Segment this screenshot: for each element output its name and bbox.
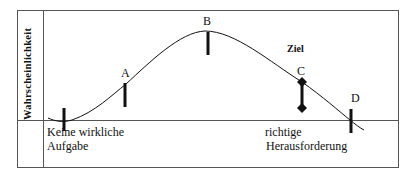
right-bottom-label-line1: richtige <box>265 126 302 139</box>
left-bottom-label-line1: Keine wirkliche <box>47 126 124 139</box>
right-bottom-label-line2: Herausforderung <box>266 140 347 153</box>
probability-curve <box>48 31 364 130</box>
y-axis-label: Wahrscheinlichkeit <box>22 28 33 120</box>
left-bottom-label-line2: Aufgabe <box>47 140 88 153</box>
diamond-c-bottom <box>297 103 307 113</box>
point-label-c: C <box>297 65 305 78</box>
point-label-b: B <box>203 15 211 28</box>
point-label-d: D <box>351 92 360 105</box>
goal-label: Ziel <box>287 42 304 55</box>
point-label-a: A <box>121 67 130 80</box>
diamond-c-top <box>297 77 307 87</box>
